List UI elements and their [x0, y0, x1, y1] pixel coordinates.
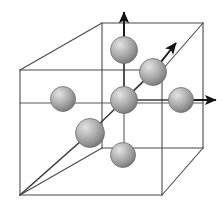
atom-bottom-face [111, 143, 136, 168]
atom-left-face [51, 87, 76, 112]
atom-front-face-lower [76, 119, 105, 148]
inner-guide-lines [20, 23, 203, 148]
connector-top-left [20, 23, 102, 70]
connector-bottom-right [162, 148, 203, 195]
atom-diagonal-face [140, 59, 167, 86]
atom-origin-corner [111, 87, 138, 114]
connector-bottom-left [20, 148, 102, 195]
lattice-canvas [0, 0, 222, 223]
connector-top-right [162, 23, 203, 70]
atom-right-face [169, 88, 194, 113]
crystal-lattice-figure [0, 0, 222, 223]
atom-back-face-top [111, 37, 138, 64]
